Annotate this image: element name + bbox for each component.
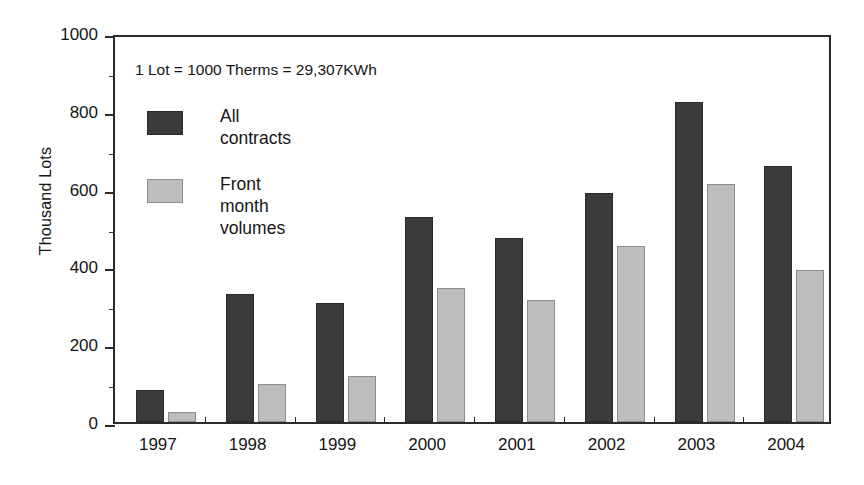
- x-tick-label-1998: 1998: [229, 435, 267, 455]
- y-major-tick: [105, 347, 115, 349]
- y-tick-label: 800: [0, 103, 98, 123]
- x-tick: [564, 417, 565, 423]
- x-tick: [295, 417, 296, 423]
- legend-swatch-front-month-volumes: [147, 179, 183, 203]
- bar-all-contracts-2000: [405, 217, 433, 422]
- x-tick: [654, 417, 655, 423]
- y-minor-tick: [109, 154, 115, 155]
- plot-area: 1 Lot = 1000 Therms = 29,307KWh All cont…: [113, 35, 831, 424]
- bar-all-contracts-2003: [675, 102, 703, 422]
- bar-all-contracts-1999: [316, 303, 344, 422]
- y-tick-label: 200: [0, 336, 98, 356]
- y-minor-tick: [109, 76, 115, 77]
- y-tick-label: 600: [0, 181, 98, 201]
- bar-all-contracts-1997: [136, 390, 164, 422]
- legend-label: All contracts: [220, 105, 291, 149]
- y-tick-label: 400: [0, 258, 98, 278]
- y-major-tick: [105, 192, 115, 194]
- y-minor-tick: [109, 387, 115, 388]
- bar-front-month-volumes-1997: [168, 412, 196, 422]
- y-tick-label: 0: [0, 414, 98, 434]
- x-tick-label-2000: 2000: [408, 435, 446, 455]
- bar-all-contracts-2001: [495, 238, 523, 422]
- y-minor-tick: [109, 309, 115, 310]
- bar-all-contracts-2002: [585, 193, 613, 423]
- x-tick-label-2002: 2002: [588, 435, 626, 455]
- x-tick: [743, 417, 744, 423]
- unit-annotation: 1 Lot = 1000 Therms = 29,307KWh: [135, 61, 377, 79]
- bar-front-month-volumes-1999: [348, 376, 376, 422]
- bar-chart-figure: Thousand Lots 02004006008001000 19971998…: [0, 0, 864, 485]
- bar-front-month-volumes-2001: [527, 300, 555, 422]
- bar-front-month-volumes-2000: [437, 288, 465, 422]
- x-tick: [474, 417, 475, 423]
- bar-front-month-volumes-2004: [796, 270, 824, 422]
- x-tick: [205, 417, 206, 423]
- y-tick-label: 1000: [0, 25, 98, 45]
- x-tick-label-1999: 1999: [318, 435, 356, 455]
- y-major-tick: [105, 425, 115, 427]
- bar-all-contracts-1998: [226, 294, 254, 422]
- x-tick-label-2001: 2001: [498, 435, 536, 455]
- bar-all-contracts-2004: [764, 166, 792, 422]
- y-major-tick: [105, 269, 115, 271]
- y-major-tick: [105, 114, 115, 116]
- y-minor-tick: [109, 232, 115, 233]
- bar-front-month-volumes-1998: [258, 384, 286, 422]
- x-tick-label-1997: 1997: [139, 435, 177, 455]
- legend-label: Front month volumes: [220, 173, 285, 239]
- bar-front-month-volumes-2002: [617, 246, 645, 422]
- x-tick-label-2003: 2003: [677, 435, 715, 455]
- bar-front-month-volumes-2003: [707, 184, 735, 422]
- x-tick-label-2004: 2004: [767, 435, 805, 455]
- x-tick: [384, 417, 385, 423]
- legend-swatch-all-contracts: [147, 111, 183, 135]
- y-major-tick: [105, 36, 115, 38]
